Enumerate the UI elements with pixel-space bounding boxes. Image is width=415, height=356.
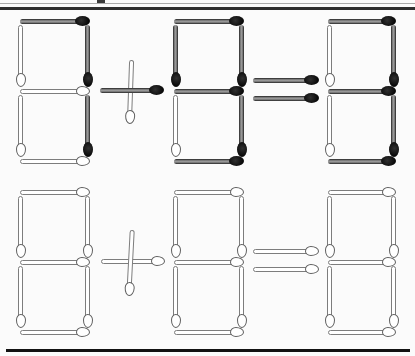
addend-1-segment-middle[interactable]: [20, 256, 90, 268]
bottom-rule: [6, 349, 410, 352]
matchstick-head-icon: [171, 314, 181, 328]
matchstick-body: [328, 260, 389, 265]
matchstick-body: [174, 190, 237, 195]
matchstick-head-icon: [305, 264, 319, 274]
matchstick-body: [86, 266, 91, 321]
matchstick-body: [328, 266, 333, 321]
matchstick-head-icon: [237, 244, 247, 258]
matchstick-body: [392, 266, 397, 321]
addend-1-segment-top[interactable]: [20, 186, 90, 198]
matchstick-body: [240, 266, 245, 321]
matchstick-body: [253, 249, 312, 254]
matchstick-head-icon: [325, 314, 335, 328]
result-segment-top-left[interactable]: [324, 196, 336, 258]
result-segment-middle[interactable]: [328, 256, 396, 268]
matchstick-body: [328, 196, 333, 251]
addend-2-segment-top-right[interactable]: [236, 196, 248, 258]
plus-sign-plus-vertical[interactable]: [123, 230, 138, 297]
matchstick-body: [174, 330, 237, 335]
matchstick-body: [392, 196, 397, 251]
matchstick-body: [127, 230, 135, 289]
result-segment-top-right[interactable]: [388, 196, 400, 258]
matchstick-body: [328, 190, 389, 195]
matchstick-head-icon: [16, 244, 26, 258]
addend-2-segment-top-left[interactable]: [170, 196, 182, 258]
matchstick-head-icon: [16, 314, 26, 328]
matchstick-head-icon: [151, 256, 165, 266]
matchstick-body: [174, 266, 179, 321]
addend-1-segment-bottom-right[interactable]: [82, 266, 94, 328]
result-segment-top[interactable]: [328, 186, 396, 198]
matchstick-head-icon: [389, 314, 399, 328]
matchstick-body: [86, 196, 91, 251]
addend-2-segment-top[interactable]: [174, 186, 244, 198]
matchstick-head-icon: [83, 314, 93, 328]
matchstick-head-icon: [389, 244, 399, 258]
addend-1-segment-bottom[interactable]: [20, 326, 90, 338]
addend-2-segment-bottom[interactable]: [174, 326, 244, 338]
matchstick-body: [20, 190, 83, 195]
result-segment-bottom[interactable]: [328, 326, 396, 338]
matchstick-head-icon: [230, 327, 244, 337]
matchstick-body: [19, 196, 24, 251]
matchstick-head-icon: [325, 244, 335, 258]
matchstick-body: [174, 196, 179, 251]
matchstick-head-icon: [76, 327, 90, 337]
addend-2-segment-bottom-right[interactable]: [236, 266, 248, 328]
matchstick-head-icon: [305, 246, 319, 256]
matchstick-head-icon: [171, 244, 181, 258]
result-segment-bottom-left[interactable]: [324, 266, 336, 328]
bottom-equation: [0, 0, 415, 356]
matchstick-body: [19, 266, 24, 321]
matchstick-body: [253, 267, 312, 272]
addend-1-segment-top-left[interactable]: [15, 196, 27, 258]
addend-1-segment-bottom-left[interactable]: [15, 266, 27, 328]
matchstick-head-icon: [124, 282, 135, 297]
matchstick-head-icon: [237, 314, 247, 328]
matchstick-body: [20, 330, 83, 335]
matchstick-body: [240, 196, 245, 251]
addend-1-segment-top-right[interactable]: [82, 196, 94, 258]
addend-2-segment-middle[interactable]: [174, 256, 244, 268]
matchstick-body: [328, 330, 389, 335]
matchstick-head-icon: [83, 244, 93, 258]
matchstick-body: [174, 260, 237, 265]
matchstick-head-icon: [382, 327, 396, 337]
matchstick-body: [20, 260, 83, 265]
equals-sign-equals-lower-bar[interactable]: [253, 263, 319, 275]
equals-sign-equals-upper-bar[interactable]: [253, 245, 319, 257]
result-segment-bottom-right[interactable]: [388, 266, 400, 328]
addend-2-segment-bottom-left[interactable]: [170, 266, 182, 328]
matchstick-puzzle-figure: [0, 0, 415, 356]
